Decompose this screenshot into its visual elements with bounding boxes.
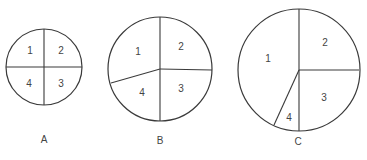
segment-label: 1 <box>265 53 271 64</box>
diagram-caption: C <box>294 136 301 147</box>
segment-label: 2 <box>178 41 184 52</box>
segment-label: 2 <box>322 37 328 48</box>
circle-a: 1234A <box>6 29 82 145</box>
circle-c: 1234C <box>238 9 360 147</box>
diagram-caption: A <box>41 134 48 145</box>
diagram-caption: B <box>157 135 164 146</box>
circle-b: 1234B <box>108 17 212 146</box>
segment-label: 3 <box>321 92 327 103</box>
pie-division-diagram: 1234A 1234B 1234C <box>0 0 367 160</box>
segment-label: 1 <box>135 46 141 57</box>
segment-label: 3 <box>178 83 184 94</box>
segment-label: 4 <box>286 112 292 123</box>
segment-label: 1 <box>27 45 33 56</box>
segment-label: 4 <box>139 87 145 98</box>
segment-divider <box>160 69 212 70</box>
segment-divider <box>111 69 160 83</box>
segment-label: 2 <box>58 45 64 56</box>
segment-label: 3 <box>58 78 64 89</box>
segment-label: 4 <box>26 78 32 89</box>
